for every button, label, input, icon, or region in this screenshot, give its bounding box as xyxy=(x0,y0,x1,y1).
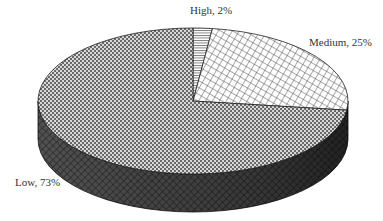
pie-chart: High, 2% Medium, 25% Low, 73% xyxy=(0,0,383,221)
label-high: High, 2% xyxy=(190,4,232,16)
label-medium: Medium, 25% xyxy=(309,36,372,48)
label-low: Low, 73% xyxy=(15,176,60,188)
